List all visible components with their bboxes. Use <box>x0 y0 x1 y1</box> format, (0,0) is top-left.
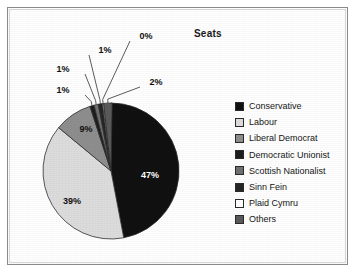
legend-item-label: Conservative <box>249 101 302 111</box>
legend-item-plaid-cymru[interactable]: Plaid Cymru <box>235 195 355 211</box>
legend-item-label: Plaid Cymru <box>249 198 298 208</box>
legend-item-democratic-unionist[interactable]: Democratic Unionist <box>235 147 355 163</box>
slice-value-label: 0% <box>139 31 152 41</box>
legend-swatch-icon <box>235 166 244 175</box>
legend-item-scottish-nationalist[interactable]: Scottish Nationalist <box>235 163 355 179</box>
chart-legend: ConservativeLabourLiberal DemocratDemocr… <box>235 98 355 228</box>
legend-item-label: Labour <box>249 117 277 127</box>
legend-swatch-icon <box>235 134 244 143</box>
slice-value-label: 9% <box>79 124 92 134</box>
legend-item-labour[interactable]: Labour <box>235 114 355 130</box>
leader-line <box>89 55 100 104</box>
leader-line <box>108 87 140 103</box>
legend-swatch-icon <box>235 118 244 127</box>
legend-swatch-icon <box>235 102 244 111</box>
slice-value-label: 1% <box>98 45 111 55</box>
slice-value-label: 47% <box>141 170 159 180</box>
leader-line <box>85 95 92 106</box>
legend-swatch-icon <box>235 199 244 208</box>
legend-item-sinn-fein[interactable]: Sinn Fein <box>235 179 355 195</box>
callout-leader-lines <box>85 41 140 106</box>
legend-swatch-icon <box>235 183 244 192</box>
legend-swatch-icon <box>235 150 244 159</box>
legend-item-label: Democratic Unionist <box>249 150 330 160</box>
slice-value-label: 1% <box>56 64 69 74</box>
legend-item-liberal-democrat[interactable]: Liberal Democrat <box>235 130 355 146</box>
legend-item-label: Others <box>249 214 276 224</box>
legend-item-label: Scottish Nationalist <box>249 166 326 176</box>
chart-frame: Seats 47%39%9%1%1%1%0%2% ConservativeLab… <box>7 7 348 265</box>
legend-item-conservative[interactable]: Conservative <box>235 98 355 114</box>
legend-item-others[interactable]: Others <box>235 211 355 227</box>
slice-value-label: 1% <box>56 85 69 95</box>
legend-item-label: Liberal Democrat <box>249 133 318 143</box>
slice-value-label: 39% <box>63 196 81 206</box>
legend-item-label: Sinn Fein <box>249 182 287 192</box>
slice-value-label: 2% <box>149 77 162 87</box>
legend-swatch-icon <box>235 215 244 224</box>
